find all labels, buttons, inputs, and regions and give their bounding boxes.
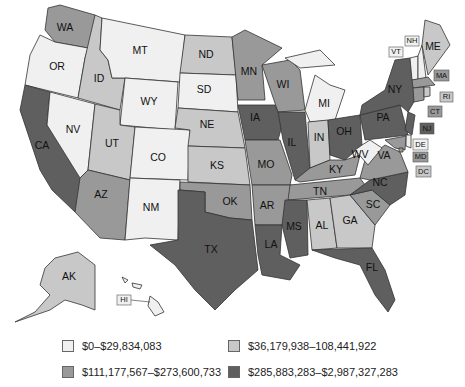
state-IA [238,105,283,140]
label-NM: NM [143,201,159,213]
label-TN: TN [313,185,327,197]
svg-text:HI: HI [120,295,128,304]
callout-MD: MD [413,152,428,162]
label-NE: NE [200,118,215,130]
label-NC: NC [372,176,388,188]
callout-NH: NH [405,36,419,46]
label-CO: CO [150,151,166,163]
legend-item-tier4: $285,883,283–$2,987,327,283 [228,366,398,378]
label-OK: OK [222,195,237,207]
label-LA: LA [265,238,278,250]
callout-CT: CT [428,106,442,117]
label-AK: AK [62,270,76,282]
label-IA: IA [250,111,260,123]
label-WY: WY [141,95,158,107]
legend-label-tier1: $0–$29,834,083 [82,340,162,352]
label-ID: ID [94,72,105,84]
legend-item-tier1: $0–$29,834,083 [62,340,162,352]
legend-item-tier3: $111,177,567–$273,600,733 [62,366,221,378]
svg-text:MA: MA [436,71,447,80]
label-NV: NV [66,123,81,135]
label-FL: FL [366,261,378,273]
label-ME: ME [425,40,441,52]
state-DE [406,135,411,148]
state-FL [312,248,395,312]
legend-swatch-tier1 [62,340,74,352]
state-AK [15,252,95,322]
label-AZ: AZ [94,188,108,200]
label-MN: MN [241,65,257,77]
state-IN [308,120,330,168]
label-SC: SC [366,198,381,210]
callout-HI: HI [117,295,150,305]
label-SD: SD [197,83,212,95]
legend-swatch-tier4 [228,366,240,378]
legend: $0–$29,834,083 $36,179,938–108,441,922 $… [0,335,465,385]
label-MT: MT [132,44,148,56]
legend-label-tier2: $36,179,938–108,441,922 [248,340,376,352]
label-NY: NY [388,83,403,95]
label-WA: WA [57,21,74,33]
callout-MA: MA [434,70,449,81]
label-UT: UT [105,137,120,149]
label-CA: CA [35,139,50,151]
callout-DE: DE [413,139,428,150]
state-CT [413,87,424,102]
state-AZ [75,170,130,240]
legend-label-tier4: $285,883,283–$2,987,327,283 [248,366,398,378]
label-KY: KY [329,163,343,175]
label-IN: IN [314,131,325,143]
label-MI: MI [318,97,330,109]
callout-NJ: NJ [420,123,434,134]
label-OR: OR [49,60,65,72]
svg-text:NJ: NJ [422,124,431,133]
label-WI: WI [277,78,290,90]
state-NJ [405,112,415,135]
legend-item-tier2: $36,179,938–108,441,922 [228,340,376,352]
svg-text:VT: VT [391,47,401,56]
svg-text:MD: MD [415,152,427,161]
label-KS: KS [210,159,224,171]
svg-text:CT: CT [430,107,440,116]
label-GA: GA [342,214,357,226]
legend-label-tier3: $111,177,567–$273,600,733 [82,366,221,378]
label-AR: AR [260,199,275,211]
label-MS: MS [286,220,302,232]
legend-swatch-tier2 [228,340,240,352]
label-PA: PA [376,111,389,123]
svg-text:DC: DC [418,167,429,176]
label-ND: ND [198,48,214,60]
label-AL: AL [316,219,329,231]
label-TX: TX [204,243,217,255]
svg-text:RI: RI [443,92,451,101]
legend-swatch-tier3 [62,366,74,378]
us-choropleth-map: WA OR CA ID NV MT WY UT AZ CO NM ND SD N… [0,0,465,330]
label-VA: VA [377,149,390,161]
label-WV: WV [352,148,369,160]
callout-DC: DC [416,166,431,177]
label-IL: IL [288,136,297,148]
svg-text:DE: DE [415,140,425,149]
state-RI [424,87,430,97]
callout-RI: RI [440,92,453,102]
callout-VT: VT [389,47,403,57]
label-OH: OH [336,125,352,137]
state-DC [399,148,403,152]
label-MO: MO [258,158,275,170]
svg-text:NH: NH [407,36,418,45]
